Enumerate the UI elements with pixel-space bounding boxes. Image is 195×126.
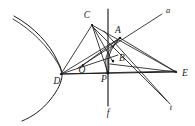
label-A: A	[114, 25, 121, 35]
point-marker-D	[60, 73, 62, 75]
label-D: D	[53, 76, 61, 86]
line-t-upper	[92, 26, 167, 101]
label-E: E	[181, 68, 188, 78]
label-B: B	[119, 53, 125, 63]
figure-canvas: A B C D E O P a f t	[0, 0, 195, 126]
geometry-figure: A B C D E O P a f t	[0, 0, 195, 126]
segment-A-E	[120, 38, 176, 72]
label-line-f: f	[107, 108, 111, 118]
point-marker-B	[112, 60, 114, 62]
asymptote-line	[13, 19, 62, 74]
point-marker-P	[107, 72, 109, 74]
point-marker-A	[119, 37, 121, 39]
point-marker-E	[175, 71, 177, 73]
segment-B-E	[110, 64, 176, 72]
label-line-t: t	[170, 102, 173, 112]
segment-D-B	[61, 55, 118, 74]
label-C: C	[84, 10, 91, 20]
label-P: P	[100, 74, 107, 84]
label-O: O	[79, 65, 86, 75]
segment-D-C	[61, 25, 92, 74]
point-marker-C	[91, 24, 93, 26]
label-line-a: a	[166, 5, 170, 15]
hyperbola-branch-curve	[14, 16, 62, 121]
segment-D-A	[61, 38, 120, 74]
